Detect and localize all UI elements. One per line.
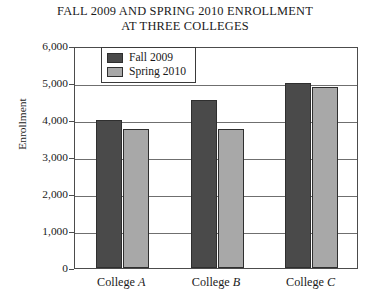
x-axis-tick-label-prefix: College [192, 275, 233, 289]
y-axis-tick-label: 0 [8, 263, 68, 274]
x-axis-tick-label: College A [66, 275, 176, 290]
bar [96, 120, 122, 268]
legend-item-label: Spring 2010 [129, 66, 186, 78]
chart-title-line-1: FALL 2009 AND SPRING 2010 ENROLLMENT [0, 4, 370, 19]
legend-item: Spring 2010 [107, 65, 186, 79]
y-axis-tick-label: 2,000 [8, 189, 68, 200]
y-axis-tick-label: 1,000 [8, 226, 68, 237]
chart-title-line-2: AT THREE COLLEGES [0, 19, 370, 34]
x-axis-tick-label: College C [256, 275, 366, 290]
x-axis-tick-label-letter: B [233, 275, 240, 289]
bar [218, 129, 244, 268]
legend-item-label: Fall 2009 [129, 52, 173, 64]
y-axis-tick-label: 5,000 [8, 78, 68, 89]
chart-legend: Fall 2009Spring 2010 [101, 47, 196, 83]
legend-swatch-icon [107, 67, 123, 77]
bar [285, 83, 311, 268]
x-axis-tick-label-prefix: College [97, 275, 138, 289]
bar [312, 87, 338, 268]
x-axis-tick-label-prefix: College [286, 275, 327, 289]
x-axis-tick-label: College B [161, 275, 271, 290]
y-axis-tick-label: 4,000 [8, 115, 68, 126]
legend-swatch-icon [107, 53, 123, 63]
bar [123, 129, 149, 268]
bar [191, 100, 217, 268]
bar-chart-figure: FALL 2009 AND SPRING 2010 ENROLLMENT AT … [0, 0, 370, 307]
y-axis-tick-label: 6,000 [8, 41, 68, 52]
y-axis-tick-mark [69, 269, 74, 270]
x-axis-tick-label-letter: A [138, 275, 145, 289]
legend-item: Fall 2009 [107, 51, 186, 65]
y-axis-tick-label: 3,000 [8, 152, 68, 163]
x-axis-tick-label-letter: C [327, 275, 335, 289]
chart-title: FALL 2009 AND SPRING 2010 ENROLLMENT AT … [0, 4, 370, 34]
